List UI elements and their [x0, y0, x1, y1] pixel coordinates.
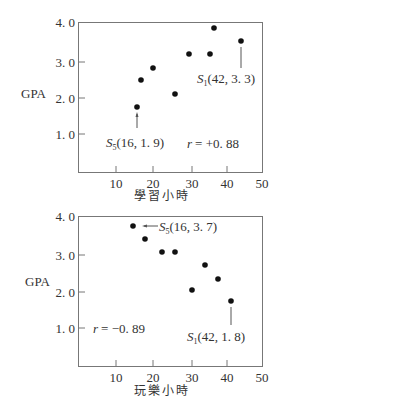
bottom-x-axis-label: 玩樂小時 [134, 383, 190, 398]
top-y-axis-label: GPA [21, 86, 46, 101]
data-point [238, 38, 244, 44]
top-xtick-50: 50 [256, 176, 269, 191]
data-point [211, 25, 217, 31]
bottom-plot-frame [79, 217, 263, 367]
top-scatter-chart: 4. 0 3. 0 2. 0 1. 0 GPA 10 20 30 40 50 學… [21, 15, 269, 203]
top-x-ticks [116, 166, 227, 173]
top-data-points [134, 25, 244, 110]
bottom-xtick-20: 20 [147, 370, 160, 385]
bottom-x-ticks [116, 360, 227, 367]
data-point [186, 51, 192, 57]
top-s1-label: S1(42, 3. 3) [197, 71, 255, 88]
data-point [159, 249, 165, 255]
arrow-up-icon [136, 112, 139, 117]
top-correlation-label: r= +0. 88 [187, 136, 239, 151]
bottom-correlation-label: r= −0. 89 [93, 321, 145, 336]
data-point [150, 65, 156, 71]
bottom-xtick-10: 10 [110, 370, 123, 385]
data-point [207, 51, 213, 57]
data-point [215, 276, 221, 282]
top-ytick-3: 3. 0 [56, 55, 76, 70]
top-ytick-4: 4. 0 [56, 15, 76, 30]
bottom-scatter-chart: 4. 0 3. 0 2. 0 1. 0 GPA 10 20 30 40 50 玩… [25, 209, 269, 398]
arrow-left-icon [142, 225, 147, 228]
bottom-data-points [130, 223, 234, 304]
bottom-xtick-50: 50 [256, 370, 269, 385]
bottom-x-tick-labels: 10 20 30 40 50 [110, 370, 269, 385]
top-ytick-1: 1. 0 [56, 127, 76, 142]
data-point [142, 236, 148, 242]
top-xtick-40: 40 [221, 176, 234, 191]
bottom-y-tick-labels: 4. 0 3. 0 2. 0 1. 0 [56, 209, 76, 336]
bottom-s1-label: S1(42, 1. 8) [187, 329, 245, 346]
data-point [189, 287, 195, 293]
bottom-ytick-2: 2. 0 [56, 285, 76, 300]
top-ytick-2: 2. 0 [56, 91, 76, 106]
data-point [130, 223, 136, 229]
data-point [138, 77, 144, 83]
top-s5-label: S5(16, 1. 9) [106, 135, 164, 152]
data-point [228, 298, 234, 304]
top-xtick-10: 10 [110, 176, 123, 191]
bottom-y-axis-label: GPA [25, 274, 50, 289]
top-y-tick-labels: 4. 0 3. 0 2. 0 1. 0 [56, 15, 76, 142]
data-point [172, 91, 178, 97]
bottom-y-ticks [78, 255, 85, 328]
data-point [202, 262, 208, 268]
bottom-ytick-3: 3. 0 [56, 248, 76, 263]
bottom-xtick-30: 30 [186, 370, 199, 385]
data-point [172, 249, 178, 255]
top-y-ticks [78, 62, 85, 134]
top-x-axis-label: 學習小時 [134, 189, 190, 203]
data-point [134, 104, 140, 110]
bottom-ytick-1: 1. 0 [56, 321, 76, 336]
bottom-xtick-40: 40 [221, 370, 234, 385]
bottom-ytick-4: 4. 0 [56, 209, 76, 224]
charts-canvas: 4. 0 3. 0 2. 0 1. 0 GPA 10 20 30 40 50 學… [0, 0, 393, 418]
bottom-s5-label: S5(16, 3. 7) [159, 219, 217, 236]
